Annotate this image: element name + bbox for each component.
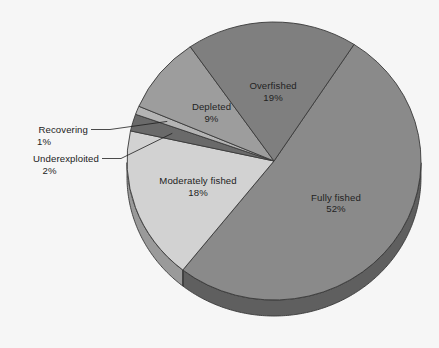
- slice-callout-underexploited-name: Underexploited: [33, 153, 99, 164]
- pie-top-slices: [127, 22, 421, 300]
- slice-callout-recovering: Recovering 1%: [0, 124, 88, 147]
- slice-callout-recovering-value: 1%: [0, 136, 88, 148]
- pie-chart: Overfished 19% Depleted 9% Fully fished …: [0, 0, 439, 348]
- slice-callout-underexploited-value: 2%: [0, 165, 99, 177]
- slice-callout-underexploited: Underexploited 2%: [0, 153, 99, 176]
- slice-callout-recovering-name: Recovering: [38, 124, 88, 135]
